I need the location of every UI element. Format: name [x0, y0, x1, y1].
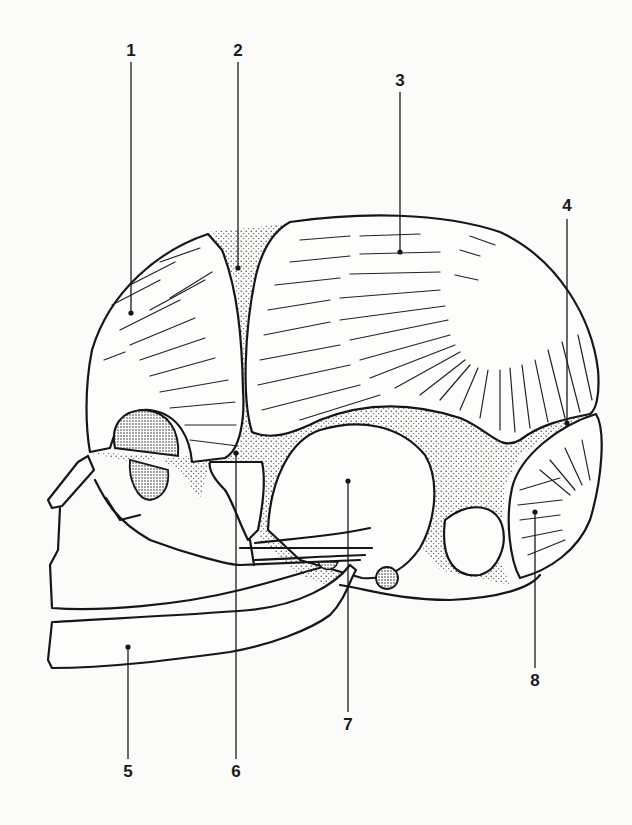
- label-6: 6: [231, 763, 240, 780]
- nasal-bone: [48, 456, 94, 508]
- label-5: 5: [123, 763, 132, 780]
- leader-dot-5: [125, 644, 130, 649]
- label-7: 7: [343, 716, 352, 733]
- mastoid-region: [444, 507, 504, 575]
- label-1: 1: [126, 42, 135, 59]
- leader-dot-1: [128, 310, 133, 315]
- label-8: 8: [530, 672, 539, 689]
- mandible: [48, 565, 540, 668]
- label-3: 3: [395, 72, 404, 89]
- leader-dot-6: [233, 450, 238, 455]
- leader-dot-3: [397, 249, 402, 254]
- sphenoid-wing: [210, 462, 264, 540]
- leader-dot-7: [345, 478, 350, 483]
- leader-dot-4: [564, 420, 569, 425]
- leader-dot-8: [532, 509, 537, 514]
- label-4: 4: [562, 197, 571, 214]
- leader-dot-2: [235, 265, 240, 270]
- parietal-bone: [246, 215, 599, 443]
- skull-diagram: [0, 0, 632, 825]
- label-2: 2: [233, 42, 242, 59]
